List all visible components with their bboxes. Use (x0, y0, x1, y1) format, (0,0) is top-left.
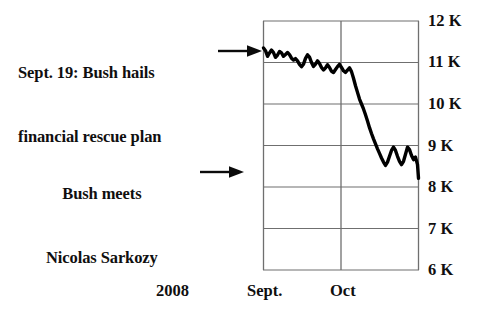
annotation-sarkozy-line2: Nicolas Sarkozy (46, 247, 158, 268)
annotation-sarkozy: Bush meets Nicolas Sarkozy (46, 141, 158, 310)
xaxis-label-year: 2008 (156, 281, 189, 301)
chart-screenshot: 12 K 11 K 10 K 9 K 8 K 7 K 6 K 2008 Sept… (0, 0, 491, 319)
ytick-label-10k: 10 K (428, 94, 461, 114)
ytick-label-8k: 8 K (428, 177, 453, 197)
xtick-label-oct: Oct (330, 281, 356, 301)
annotation-sarkozy-line1: Bush meets (46, 183, 158, 204)
ytick-label-6k: 6 K (428, 260, 453, 280)
ytick-label-9k: 9 K (428, 136, 453, 156)
ytick-label-11k: 11 K (428, 52, 461, 72)
annotation-rescue-plan-line1: Sept. 19: Bush hails (18, 62, 161, 83)
ytick-label-7k: 7 K (428, 219, 453, 239)
ytick-label-12k: 12 K (428, 11, 461, 31)
right-arrow-icon (200, 166, 244, 178)
right-arrow-icon (218, 45, 262, 57)
xtick-label-sept: Sept. (247, 281, 282, 301)
